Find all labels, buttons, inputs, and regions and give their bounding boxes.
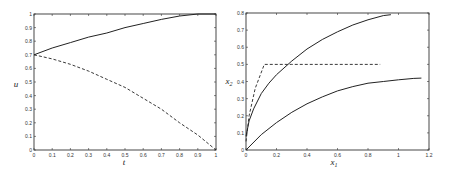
right-y-tick-label: 0.2 [237,113,244,119]
right-plot-frame [246,13,429,150]
right-x-tick-label: 0.2 [273,152,280,158]
left-x-tick-label: 0.1 [49,152,56,158]
right-y-tick-label: 0.1 [237,130,244,136]
right-y-tick-label: 0.5 [237,61,244,67]
right-x-tick-label: 1 [397,152,400,158]
right-y-axis-label: x2 [225,76,233,87]
left-y-tick-label: 0.8 [25,38,32,44]
left-y-tick-label: 0.4 [25,93,32,99]
right-y-axis-label-sub: 2 [230,81,233,87]
left-x-axis: 00.10.20.30.40.50.60.70.80.91 [33,14,218,158]
left-x-tick-label: 0.4 [103,152,110,158]
left-x-tick-label: 0.7 [158,152,165,158]
left-x-tick-label: 0 [33,152,36,158]
right-y-tick-label: 0.4 [237,79,244,85]
left-plot-frame [34,14,216,150]
left-x-tick-label: 0.6 [140,152,147,158]
right-series-line [246,78,421,150]
right-x-axis-label-sub: 1 [335,162,338,168]
left-plot-series [34,14,216,150]
left-y-axis-label: u [14,79,19,89]
left-y-tick-label: 0.5 [25,79,32,85]
right-y-tick-label: 0.3 [237,96,244,102]
right-x-axis: 00.20.40.60.811.2 [245,13,433,158]
left-plot: 00.10.20.30.40.50.60.70.80.91 00.10.20.3… [14,11,218,167]
left-x-tick-label: 0.9 [194,152,201,158]
left-y-tick-label: 0.6 [25,65,32,71]
right-x-tick-label: 0.4 [304,152,311,158]
right-plot-series [246,15,421,150]
left-x-tick-label: 1 [215,152,218,158]
left-x-axis-label: t [123,157,126,167]
left-series-line [34,14,216,55]
right-x-axis-label: x1 [330,157,338,168]
right-y-tick-label: 0 [241,147,244,153]
right-plot: 00.20.40.60.811.2 00.10.20.30.40.50.60.7… [225,10,433,168]
right-x-tick-label: 0 [245,152,248,158]
left-y-tick-label: 0.9 [25,25,32,31]
left-x-tick-label: 0.3 [85,152,92,158]
left-y-tick-label: 0 [29,147,32,153]
right-x-tick-label: 0.8 [365,152,372,158]
right-x-tick-label: 1.2 [426,152,433,158]
left-y-tick-label: 0.1 [25,133,32,139]
left-y-tick-label: 1 [29,11,32,17]
left-x-tick-label: 0.8 [176,152,183,158]
left-x-tick-label: 0.2 [67,152,74,158]
right-y-tick-label: 0.7 [237,27,244,33]
left-series-line [34,55,216,150]
left-y-tick-label: 0.3 [25,106,32,112]
right-series-line [246,15,391,137]
right-y-tick-label: 0.8 [237,10,244,16]
right-series-line [246,64,380,141]
right-x-tick-label: 0.6 [334,152,341,158]
figure: 00.10.20.30.40.50.60.70.80.91 00.10.20.3… [0,0,451,174]
right-y-tick-label: 0.6 [237,44,244,50]
left-y-axis: 00.10.20.30.40.50.60.70.80.91 [25,11,216,153]
left-y-tick-label: 0.2 [25,120,32,126]
left-y-tick-label: 0.7 [25,52,32,58]
